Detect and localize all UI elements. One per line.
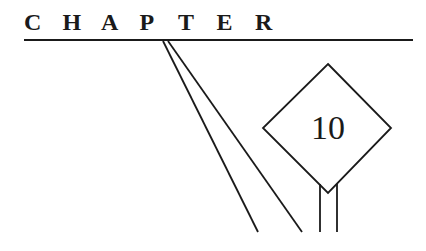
- chapter-number: 10: [298, 108, 358, 148]
- road-line-right: [168, 41, 302, 232]
- road-line-left: [163, 41, 258, 232]
- road-sign-illustration: [0, 0, 426, 251]
